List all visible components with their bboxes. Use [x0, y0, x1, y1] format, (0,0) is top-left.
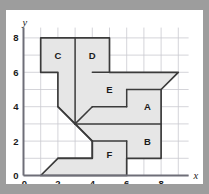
- x-tick-label: 8: [158, 178, 163, 185]
- y-tick-label: 8: [13, 32, 18, 43]
- x-tick-label: 2: [55, 178, 60, 185]
- region-label-d: D: [89, 50, 96, 61]
- x-tick-label: 4: [90, 178, 96, 185]
- screenshot-root: 2468246800xyCDEABF: [0, 0, 209, 194]
- y-origin-label: 0: [13, 170, 18, 181]
- region-label-c: C: [54, 50, 61, 61]
- y-axis-label: y: [22, 17, 28, 28]
- x-origin-label: 0: [22, 178, 27, 185]
- y-tick-label: 6: [13, 67, 18, 78]
- region-label-a: A: [144, 101, 151, 112]
- x-tick-label: 6: [124, 178, 129, 185]
- y-tick-label: 4: [13, 101, 19, 112]
- coordinate-grid-figure: 2468246800xyCDEABF: [6, 10, 203, 184]
- x-axis-label: x: [193, 170, 199, 181]
- y-tick-label: 2: [13, 136, 18, 147]
- figure-card: 2468246800xyCDEABF: [6, 10, 203, 184]
- region-label-b: B: [144, 136, 151, 147]
- region-label-e: E: [106, 84, 112, 95]
- region-label-f: F: [107, 149, 113, 160]
